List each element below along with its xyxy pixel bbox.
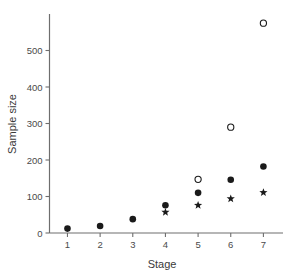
y-tick-label: 500 xyxy=(27,45,43,56)
data-point-filled-circle xyxy=(129,216,136,223)
x-tick-label: 3 xyxy=(130,239,135,250)
y-tick-label: 200 xyxy=(27,155,43,166)
data-point-filled-circle xyxy=(227,176,234,183)
series-star xyxy=(161,188,267,215)
data-point-filled-circle xyxy=(97,223,104,230)
data-point-filled-circle xyxy=(195,190,202,197)
y-axis: 0100200300400500 xyxy=(27,14,50,239)
data-point-star xyxy=(194,201,202,209)
y-tick-label: 0 xyxy=(37,228,42,239)
series-open-circle xyxy=(195,20,267,182)
data-point-open-circle xyxy=(195,176,201,182)
y-axis-title: Sample size xyxy=(6,94,18,154)
data-point-filled-circle xyxy=(260,163,267,170)
x-tick-label: 1 xyxy=(65,239,70,250)
data-points-layer xyxy=(64,20,267,232)
x-tick-label: 6 xyxy=(228,239,233,250)
series-filled-circle xyxy=(64,163,267,232)
x-tick-label: 2 xyxy=(97,239,102,250)
x-tick-label: 4 xyxy=(163,239,168,250)
x-tick-label: 7 xyxy=(261,239,266,250)
data-point-filled-circle xyxy=(162,202,169,209)
y-axis-ticks: 0100200300400500 xyxy=(27,45,50,239)
x-axis: 1234567 xyxy=(50,233,284,250)
data-point-star xyxy=(161,208,169,216)
data-point-open-circle xyxy=(228,124,234,130)
x-axis-title: Stage xyxy=(148,258,177,270)
scatter-chart: 0100200300400500 1234567 Sample size Sta… xyxy=(0,0,291,277)
chart-canvas: 0100200300400500 1234567 Sample size Sta… xyxy=(0,0,291,277)
x-axis-ticks: 1234567 xyxy=(65,233,266,250)
data-point-open-circle xyxy=(260,20,266,26)
data-point-star xyxy=(259,188,267,196)
x-tick-label: 5 xyxy=(195,239,200,250)
y-tick-label: 100 xyxy=(27,191,43,202)
y-tick-label: 300 xyxy=(27,118,43,129)
data-point-filled-circle xyxy=(64,225,71,232)
data-point-star xyxy=(227,194,235,202)
y-tick-label: 400 xyxy=(27,82,43,93)
